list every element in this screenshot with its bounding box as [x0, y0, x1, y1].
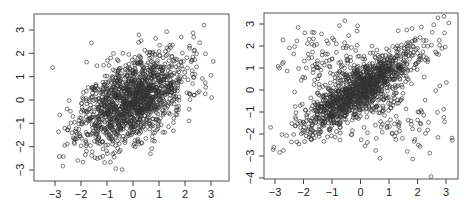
data-point: [430, 43, 434, 47]
data-point: [400, 136, 404, 140]
data-point: [338, 138, 342, 142]
data-point: [418, 36, 422, 40]
data-point: [335, 50, 339, 54]
data-point: [272, 145, 276, 149]
data-point: [350, 46, 354, 50]
data-point: [374, 137, 378, 141]
data-point: [285, 69, 289, 73]
data-point: [343, 19, 347, 23]
data-point: [320, 61, 324, 65]
data-point: [328, 81, 332, 85]
x-axis: −3−2−10123: [269, 179, 449, 198]
data-point: [408, 57, 412, 61]
data-point: [285, 134, 289, 138]
data-point: [296, 26, 300, 30]
data-point: [309, 96, 313, 100]
data-point: [404, 107, 408, 111]
data-point: [436, 110, 440, 114]
data-point: [442, 15, 446, 19]
scatter-plot-right: −3−2−10123−4−3−2−10123: [0, 0, 470, 211]
data-point: [290, 122, 294, 126]
data-point: [426, 44, 430, 48]
x-tick-label: 3: [443, 186, 449, 198]
data-point: [294, 111, 298, 115]
data-point: [394, 114, 398, 118]
data-point: [338, 131, 342, 135]
data-point: [319, 68, 323, 72]
x-tick-label: 0: [357, 186, 363, 198]
data-point: [356, 24, 360, 28]
data-point: [334, 42, 338, 46]
data-point: [293, 45, 297, 49]
data-point: [375, 48, 379, 52]
data-point: [421, 50, 425, 54]
data-point: [424, 39, 428, 43]
data-point: [443, 31, 447, 35]
data-point: [359, 138, 363, 142]
data-point: [447, 21, 451, 25]
data-point: [429, 175, 433, 179]
data-point: [312, 37, 316, 41]
x-tick-label: −2: [297, 186, 310, 198]
data-point: [393, 96, 397, 100]
data-point: [378, 156, 382, 160]
data-point: [303, 31, 307, 35]
data-point: [311, 50, 315, 54]
data-point: [437, 38, 441, 42]
data-point: [370, 44, 374, 48]
data-point: [362, 126, 366, 130]
data-point: [330, 134, 334, 138]
x-tick-label: −1: [326, 186, 339, 198]
data-point: [401, 91, 405, 95]
data-point: [450, 139, 454, 143]
data-point: [442, 107, 446, 111]
data-point: [323, 63, 327, 67]
data-point: [427, 121, 431, 125]
y-tick-label: 3: [244, 21, 256, 27]
data-point: [410, 27, 414, 31]
data-point: [432, 23, 436, 27]
y-tick-label: 2: [244, 43, 256, 49]
data-point: [293, 90, 297, 94]
data-point: [278, 151, 282, 155]
data-point: [428, 151, 432, 155]
data-point: [398, 129, 402, 133]
data-point: [411, 127, 415, 131]
data-point: [349, 55, 353, 59]
data-point: [351, 129, 355, 133]
data-point: [312, 83, 316, 87]
figure: −3−2−10123−3−2−10123 −3−2−10123−4−3−2−10…: [0, 0, 470, 211]
data-point: [317, 82, 321, 86]
data-point: [386, 121, 390, 125]
data-point: [335, 130, 339, 134]
data-point: [417, 128, 421, 132]
data-point: [380, 130, 384, 134]
data-point: [347, 34, 351, 38]
data-point: [295, 39, 299, 43]
data-point: [389, 118, 393, 122]
data-point: [303, 140, 307, 144]
scatter-points: [269, 15, 454, 179]
data-point: [404, 80, 408, 84]
y-axis: −4−3−2−10123: [244, 21, 264, 184]
data-point: [293, 105, 297, 109]
data-point: [343, 41, 347, 45]
data-point: [366, 131, 370, 135]
data-point: [442, 115, 446, 119]
data-point: [419, 122, 423, 126]
data-point: [338, 24, 342, 28]
data-point: [303, 59, 307, 63]
x-tick-label: −3: [269, 186, 282, 198]
data-point: [436, 136, 440, 140]
data-point: [306, 52, 310, 56]
data-point: [345, 54, 349, 58]
data-point: [346, 121, 350, 125]
data-point: [374, 149, 378, 153]
data-point: [426, 128, 430, 132]
data-point: [396, 29, 400, 33]
data-point: [292, 133, 296, 137]
x-tick-label: 2: [414, 186, 420, 198]
data-point: [282, 149, 286, 153]
data-point: [355, 43, 359, 47]
data-point: [436, 16, 440, 20]
